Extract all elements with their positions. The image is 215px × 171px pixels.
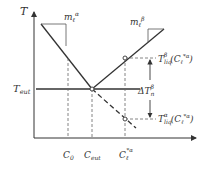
alpha-liquidus — [41, 24, 92, 89]
alpha-liquidus-extension — [92, 89, 136, 128]
x-tick-c0: C0 — [63, 150, 74, 161]
t-liq-beta-label: Tliqβ(Cℓ*α) — [158, 51, 193, 66]
phase-diagram: T Teut mℓα mℓβ Tliqβ(Cℓ*α) ΔTnβ Tliqα(Cℓ… — [0, 0, 215, 171]
slope-alpha-label: mℓα — [64, 10, 79, 23]
t-eut-label: Teut — [13, 83, 31, 96]
delta-t-label: ΔTnβ — [137, 83, 155, 97]
slope-triangle-alpha — [41, 24, 66, 46]
beta-liquidus — [92, 29, 164, 89]
slope-beta-label: mℓβ — [130, 15, 145, 28]
x-tick-ceut: Ceut — [84, 150, 101, 161]
y-axis-label: T — [20, 5, 29, 18]
x-tick-cl: Cℓ*α — [119, 147, 133, 161]
alpha-liquidus-point — [123, 117, 127, 121]
t-liq-alpha-label: Tliqα(Cℓ*α) — [158, 111, 194, 126]
eutectic-point — [90, 87, 94, 91]
beta-liquidus-point — [123, 56, 127, 60]
